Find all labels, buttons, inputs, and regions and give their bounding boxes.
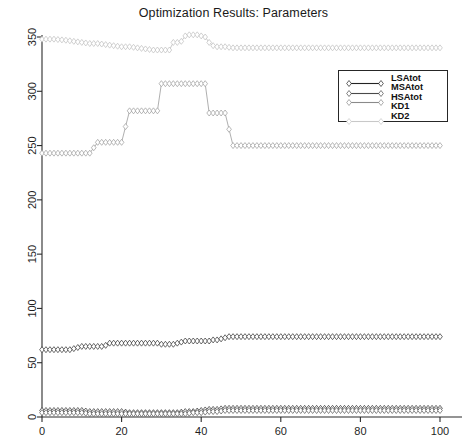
- data-point-marker: [199, 33, 204, 39]
- data-point-marker: [175, 340, 180, 346]
- data-point-marker: [379, 118, 384, 124]
- data-point-marker: [438, 143, 443, 149]
- data-point-marker: [119, 139, 124, 145]
- data-point-marker: [227, 126, 232, 132]
- x-tick-label: 20: [115, 425, 127, 437]
- data-point-marker: [155, 340, 160, 346]
- data-point-marker: [155, 108, 160, 114]
- data-point-marker: [207, 338, 212, 344]
- chart-page: Optimization Results: Parameters 0501001…: [0, 0, 467, 444]
- y-tick-label: 100: [26, 299, 38, 317]
- legend-key-icon: [343, 93, 387, 102]
- data-point-marker: [68, 347, 73, 353]
- data-point-marker: [211, 43, 216, 49]
- data-point-marker: [438, 45, 443, 51]
- data-point-marker: [219, 336, 224, 342]
- y-tick-label: 350: [26, 28, 38, 46]
- data-point-marker: [75, 345, 80, 351]
- legend-label: KD2: [387, 112, 409, 121]
- data-point-marker: [179, 339, 184, 345]
- chart-legend: LSAtotMSAtotHSAtotKD1KD2: [338, 70, 448, 122]
- x-tick-label: 40: [195, 425, 207, 437]
- y-tick-label: 50: [26, 357, 38, 369]
- data-point-marker: [123, 124, 128, 130]
- data-point-marker: [347, 118, 352, 124]
- data-point-marker: [72, 346, 77, 352]
- series-kd2: [40, 32, 443, 53]
- x-tick-label: 0: [39, 425, 45, 437]
- data-point-marker: [195, 32, 200, 38]
- data-point-marker: [223, 110, 228, 116]
- y-tick-label: 250: [26, 136, 38, 154]
- y-tick-label: 300: [26, 82, 38, 100]
- data-point-marker: [215, 337, 220, 343]
- data-point-marker: [99, 343, 104, 349]
- x-tick-label: 80: [354, 425, 366, 437]
- data-point-marker: [167, 47, 172, 53]
- series-lsatot: [40, 334, 443, 353]
- legend-key-icon: [343, 112, 387, 121]
- y-tick-label: 0: [26, 414, 38, 420]
- chart-plot-area: 050100150200250300350020406080100: [0, 0, 467, 444]
- data-point-marker: [171, 341, 176, 347]
- data-point-marker: [223, 335, 228, 341]
- y-tick-label: 150: [26, 245, 38, 263]
- legend-key-icon: [343, 84, 387, 93]
- x-tick-label: 60: [275, 425, 287, 437]
- legend-key-icon: [343, 74, 387, 83]
- x-tick-label: 100: [431, 425, 449, 437]
- legend-key-icon: [343, 102, 387, 111]
- data-point-marker: [175, 39, 180, 45]
- data-point-marker: [203, 81, 208, 87]
- legend-item-kd2[interactable]: KD2: [339, 112, 447, 121]
- y-tick-label: 200: [26, 191, 38, 209]
- data-point-marker: [438, 334, 443, 340]
